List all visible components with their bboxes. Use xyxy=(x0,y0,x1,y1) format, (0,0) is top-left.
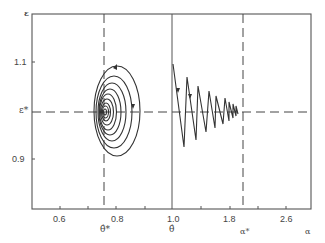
x-tick-label: 1.8 xyxy=(223,215,236,224)
x-axis-label: α xyxy=(305,228,310,236)
y-tick-label: 1.1 xyxy=(14,58,27,67)
oscillation-trajectory xyxy=(173,64,238,147)
x-tick-label: 0.8 xyxy=(111,215,124,224)
arrow-icon xyxy=(188,94,192,99)
y-ref-label: ε* xyxy=(19,106,28,115)
x-tick-label: 0.6 xyxy=(53,215,66,224)
y-axis-label: ε xyxy=(24,9,29,17)
theta-star-label: θ̂* xyxy=(100,225,110,234)
alpha-star-label: α* xyxy=(240,228,249,236)
y-tick-label: 0.9 xyxy=(12,155,25,164)
theta-hat-label: θ̂ xyxy=(169,225,174,234)
phase-plot xyxy=(0,0,325,243)
x-tick-label: 1.0 xyxy=(167,215,180,224)
spiral-trajectory xyxy=(94,66,140,156)
x-tick-label: 2.6 xyxy=(280,215,293,224)
